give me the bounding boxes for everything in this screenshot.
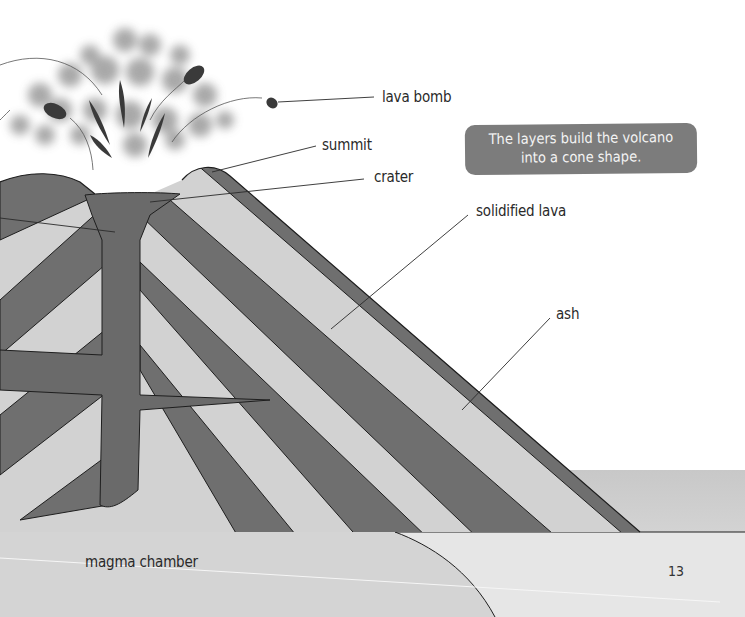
callout-box: The layers build the volcano into a cone… xyxy=(465,123,698,175)
label-solidified-lava: solidified lava xyxy=(476,202,566,220)
callout-line-1: The layers build the volcano xyxy=(465,128,697,149)
callout-line-2: into a cone shape. xyxy=(465,147,697,168)
label-crater: crater xyxy=(374,168,413,186)
page-number: 13 xyxy=(668,563,684,579)
label-summit: summit xyxy=(322,136,372,154)
label-ash: ash xyxy=(556,305,579,323)
label-lava-bomb: lava bomb xyxy=(382,88,451,106)
leader-lines xyxy=(0,0,745,617)
label-magma-chamber: magma chamber xyxy=(85,553,198,571)
diagram-page: lava bomb summit crater solidified lava … xyxy=(0,0,745,617)
